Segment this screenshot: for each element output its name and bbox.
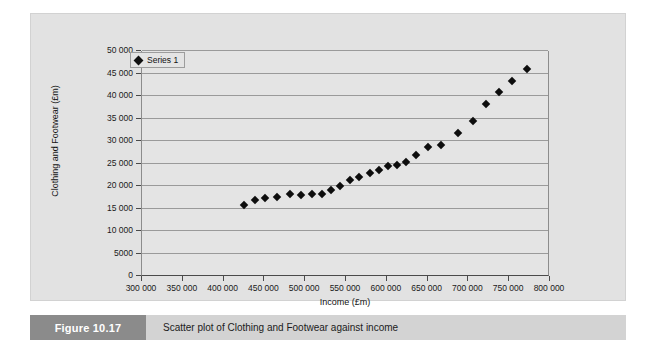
scatter-point (297, 191, 305, 199)
x-axis-tick (182, 276, 183, 281)
scatter-point (365, 168, 373, 176)
x-axis-tick (549, 276, 550, 281)
x-axis-tick (263, 276, 264, 281)
x-axis-tick (386, 276, 387, 281)
x-axis-tick (467, 276, 468, 281)
y-axis-tick-label: 50 000 (75, 46, 133, 54)
y-axis-tick-label-wrap: 40 000 (73, 91, 133, 99)
y-axis-tick (136, 185, 141, 186)
y-axis-tick-label-wrap: 15 000 (73, 204, 133, 212)
gridline-horizontal (142, 95, 548, 96)
y-axis-tick-label: 30 000 (75, 136, 133, 144)
scatter-point (273, 193, 281, 201)
gridline-horizontal (142, 253, 548, 254)
gridline-horizontal (142, 230, 548, 231)
y-axis-tick-label-wrap: 50 000 (73, 46, 133, 54)
scatter-point (261, 193, 269, 201)
y-axis-tick (136, 118, 141, 119)
y-axis-tick-label-wrap: 35 000 (73, 114, 133, 122)
scatter-point (346, 175, 354, 183)
scatter-point (355, 173, 363, 181)
x-axis-tick (427, 276, 428, 281)
scatter-point (336, 181, 344, 189)
y-axis-tick-label-wrap: 45 000 (73, 69, 133, 77)
y-axis-title: Clothing and Footwear (£m) (50, 51, 60, 231)
y-axis-tick-label-wrap: 10 000 (73, 226, 133, 234)
y-axis-tick-label: 10 000 (75, 226, 133, 234)
y-axis-tick (136, 50, 141, 51)
y-axis-tick-label-wrap: 20 000 (73, 181, 133, 189)
y-axis-tick-label: 40 000 (75, 91, 133, 99)
scatter-point (482, 100, 490, 108)
gridline-horizontal (142, 185, 548, 186)
x-axis-tick (345, 276, 346, 281)
x-axis-tick (141, 276, 142, 281)
gridline-horizontal (142, 50, 548, 51)
y-axis-tick (136, 253, 141, 254)
scatter-point (285, 190, 293, 198)
scatter-point (374, 166, 382, 174)
y-axis-tick-label-wrap: 25 000 (73, 159, 133, 167)
figure-caption-text: Scatter plot of Clothing and Footwear ag… (163, 315, 398, 340)
plot-area (141, 51, 549, 276)
gridline-horizontal (142, 163, 548, 164)
y-axis-tick-label-wrap: 30 000 (73, 136, 133, 144)
x-axis-tick (508, 276, 509, 281)
figure-number-label: Figure 10.17 (55, 322, 122, 334)
y-axis-tick-label: 0 (75, 271, 133, 279)
figure-number-badge: Figure 10.17 (30, 315, 146, 340)
y-axis-tick (136, 73, 141, 74)
figure-container: Clothing and Footwear (£m) 0500010 00015… (0, 0, 655, 359)
legend-entry-label: Series 1 (147, 55, 178, 65)
scatter-point (454, 129, 462, 137)
scatter-point (402, 157, 410, 165)
scatter-point (436, 140, 444, 148)
y-axis-tick (136, 163, 141, 164)
x-axis-tick (223, 276, 224, 281)
y-axis-tick (136, 140, 141, 141)
scatter-point (327, 185, 335, 193)
gridline-horizontal (142, 140, 548, 141)
y-axis-tick-label: 25 000 (75, 159, 133, 167)
gridline-horizontal (142, 208, 548, 209)
gridline-horizontal (142, 73, 548, 74)
gridline-horizontal (142, 118, 548, 119)
chart-legend[interactable]: Series 1 (130, 52, 185, 68)
scatter-point (508, 76, 516, 84)
y-axis-tick-label: 15 000 (75, 204, 133, 212)
scatter-point (307, 190, 315, 198)
y-axis-tick-label: 45 000 (75, 69, 133, 77)
y-axis-tick (136, 95, 141, 96)
scatter-point (251, 196, 259, 204)
y-axis-tick-label: 35 000 (75, 114, 133, 122)
chart-panel: Clothing and Footwear (£m) 0500010 00015… (30, 13, 626, 301)
x-axis-title: Income (£m) (141, 297, 549, 307)
scatter-point (318, 189, 326, 197)
y-axis-tick-label: 20 000 (75, 181, 133, 189)
y-axis-tick-label-wrap: 5000 (73, 249, 133, 257)
y-axis-tick-label: 5000 (75, 249, 133, 257)
y-axis-tick-label-wrap: 0 (73, 271, 133, 279)
diamond-marker-icon (134, 55, 144, 65)
x-axis-tick-label: 800 000 (514, 284, 584, 293)
figure-caption-bar: Figure 10.17 Scatter plot of Clothing an… (30, 315, 626, 340)
y-axis-tick (136, 230, 141, 231)
x-axis-tick (304, 276, 305, 281)
scatter-point (412, 151, 420, 159)
y-axis-tick (136, 208, 141, 209)
scatter-point (423, 143, 431, 151)
